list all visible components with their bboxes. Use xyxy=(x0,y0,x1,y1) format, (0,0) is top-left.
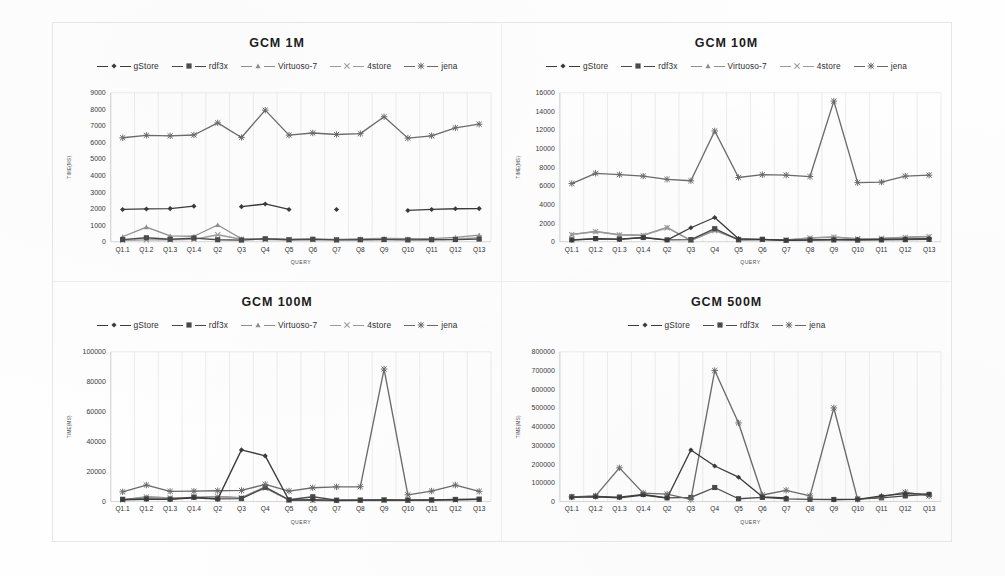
legend-item-jena[interactable]: jena xyxy=(854,61,907,71)
series-marker xyxy=(688,225,693,230)
series-marker xyxy=(310,485,316,491)
legend-item-4store[interactable]: 4store xyxy=(330,320,391,330)
series-marker xyxy=(453,237,458,242)
legend-marker-triangle-icon xyxy=(704,62,712,70)
y-axis-tick-label: 100000 xyxy=(83,348,106,355)
legend-item-jena[interactable]: jena xyxy=(772,320,825,330)
x-axis-tick-label: Q5 xyxy=(285,505,294,513)
y-axis-tick-label: 16000 xyxy=(535,89,555,96)
x-axis-tick-label: Q1.1 xyxy=(116,246,131,254)
legend-line-icon xyxy=(97,66,108,67)
legend-item-rdf3x[interactable]: rdf3x xyxy=(703,320,759,330)
legend-marker-diamond-icon xyxy=(641,321,649,329)
legend-item-rdf3x[interactable]: rdf3x xyxy=(621,61,677,71)
series-marker xyxy=(143,132,149,138)
x-axis-tick-label: Q6 xyxy=(758,246,767,254)
legend-label: gStore xyxy=(583,61,608,71)
legend-item-virtuoso-7[interactable]: Virtuoso-7 xyxy=(241,61,317,71)
series-marker xyxy=(428,488,434,494)
series-marker xyxy=(334,207,339,212)
legend-item-jena[interactable]: jena xyxy=(404,61,457,71)
legend-line-icon xyxy=(241,325,252,326)
legend-line-icon xyxy=(353,66,364,67)
legend-item-virtuoso-7[interactable]: Virtuoso-7 xyxy=(691,61,767,71)
legend-item-4store[interactable]: 4store xyxy=(780,61,841,71)
y-axis-tick-label: 200000 xyxy=(532,461,555,468)
legend-line-icon xyxy=(621,66,632,67)
series-marker xyxy=(168,237,173,242)
y-axis-tick-label: 4000 xyxy=(90,172,106,179)
x-axis-tick-label: Q5 xyxy=(734,246,743,254)
series-marker xyxy=(452,125,458,131)
series-marker xyxy=(381,366,387,372)
x-axis-tick-label: Q9 xyxy=(380,505,389,513)
x-axis-tick-label: Q1.3 xyxy=(163,505,178,513)
series-marker xyxy=(381,114,387,120)
series-marker xyxy=(167,488,173,494)
series-marker xyxy=(405,135,411,141)
series-marker xyxy=(191,236,196,241)
series-marker xyxy=(926,172,932,178)
legend-item-virtuoso-7[interactable]: Virtuoso-7 xyxy=(241,320,317,330)
legend-marker-star-icon xyxy=(867,62,875,70)
y-axis-tick-label: 2000 xyxy=(90,205,106,212)
legend-line-icon xyxy=(877,66,888,67)
y-axis-title: TIME(MS) xyxy=(67,415,72,438)
series-marker xyxy=(429,237,434,242)
series-marker xyxy=(262,481,268,487)
legend-line-icon xyxy=(854,66,865,67)
legend-marker-square-icon xyxy=(185,62,193,70)
legend-line-icon xyxy=(120,66,131,67)
chart-panel-gcm-100m: GCM 100MgStorerdf3xVirtuoso-74storejena0… xyxy=(52,282,502,542)
legend-item-4store[interactable]: 4store xyxy=(330,61,391,71)
series-marker xyxy=(807,173,813,179)
legend-label: 4store xyxy=(817,61,841,71)
legend-line-icon xyxy=(241,66,252,67)
x-axis-tick-label: Q12 xyxy=(449,246,462,254)
x-axis-tick-label: Q11 xyxy=(875,246,887,254)
legend-item-gstore[interactable]: gStore xyxy=(97,61,159,71)
series-marker xyxy=(239,447,244,452)
series-marker xyxy=(263,453,268,458)
legend-item-gstore[interactable]: gStore xyxy=(97,320,159,330)
legend-label: Virtuoso-7 xyxy=(278,61,317,71)
series-marker xyxy=(238,487,244,493)
legend-item-jena[interactable]: jena xyxy=(404,320,457,330)
legend-line-icon xyxy=(726,325,737,326)
series-marker xyxy=(263,236,268,241)
legend-item-rdf3x[interactable]: rdf3x xyxy=(172,320,228,330)
series-marker xyxy=(239,496,244,501)
series-marker xyxy=(783,172,789,178)
legend-line-icon xyxy=(264,66,275,67)
legend-marker-square-icon xyxy=(716,321,724,329)
legend-item-gstore[interactable]: gStore xyxy=(546,61,608,71)
legend-line-icon xyxy=(427,66,438,67)
legend-line-icon xyxy=(644,66,655,67)
legend-item-gstore[interactable]: gStore xyxy=(628,320,690,330)
series-marker xyxy=(215,222,220,227)
series-marker xyxy=(144,206,149,211)
x-axis-tick-label: Q9 xyxy=(829,246,838,254)
series-marker xyxy=(688,178,694,184)
x-axis-tick-label: Q7 xyxy=(782,246,791,254)
y-axis-tick-label: 1000 xyxy=(90,222,106,229)
legend-line-icon xyxy=(651,325,662,326)
x-axis-tick-label: Q7 xyxy=(782,505,791,513)
series-marker xyxy=(191,132,197,138)
series-marker xyxy=(263,201,268,206)
x-axis-tick-label: Q8 xyxy=(806,505,815,513)
x-axis-tick-label: Q1.3 xyxy=(163,246,178,254)
series-marker xyxy=(688,496,694,502)
series-marker xyxy=(286,132,292,138)
x-axis-tick-label: Q11 xyxy=(426,505,438,513)
legend-line-icon xyxy=(330,325,341,326)
legend-item-rdf3x[interactable]: rdf3x xyxy=(172,61,228,71)
legend-marker-diamond-icon xyxy=(110,62,118,70)
x-axis-tick-label: Q6 xyxy=(308,246,317,254)
legend-label: rdf3x xyxy=(209,61,228,71)
legend-marker-cross-icon xyxy=(793,62,801,70)
y-axis-tick-label: 6000 xyxy=(90,139,106,146)
x-axis-tick-label: Q1.4 xyxy=(636,505,651,513)
series-marker xyxy=(262,107,268,113)
y-axis-tick-label: 4000 xyxy=(539,201,555,208)
